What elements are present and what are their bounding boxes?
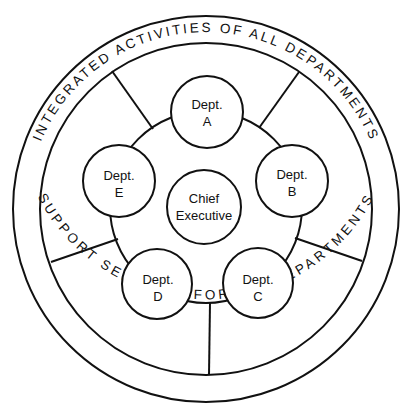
department-c-node: Dept. C — [223, 248, 293, 318]
department-e-node: Dept. E — [83, 145, 155, 217]
department-b-node: Dept. B — [256, 145, 328, 217]
department-a-node: Dept. A — [171, 76, 243, 148]
department-d-line1: Dept. — [142, 272, 173, 287]
department-c-line2: C — [253, 289, 262, 304]
chief-executive-line2: Executive — [176, 208, 232, 223]
department-d-line2: D — [153, 289, 162, 304]
department-a-line2: A — [203, 114, 212, 129]
department-e-line2: E — [115, 185, 124, 200]
department-e-line1: Dept. — [103, 168, 134, 183]
chief-executive-line1: Chief — [189, 191, 220, 206]
organization-diagram: INTEGRATED ACTIVITIES OF ALL DEPARTMENTS… — [0, 0, 409, 417]
spoke-bottom — [209, 303, 210, 375]
spoke-upper-right — [259, 72, 299, 128]
spoke-upper-left — [112, 71, 153, 129]
department-b-line2: B — [288, 184, 297, 199]
department-d-node: Dept. D — [122, 249, 192, 319]
department-c-line1: Dept. — [242, 272, 273, 287]
chief-executive-node: Chief Executive — [167, 170, 241, 244]
department-a-line1: Dept. — [191, 97, 222, 112]
department-b-line1: Dept. — [276, 167, 307, 182]
